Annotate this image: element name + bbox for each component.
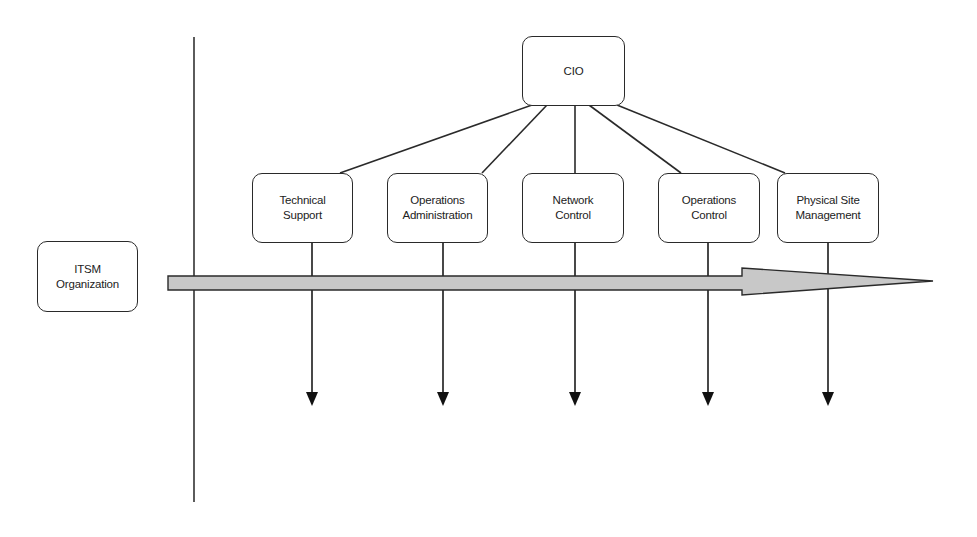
node-physical-site-management: Physical Site Management bbox=[777, 173, 879, 243]
flow-arrow-icon bbox=[168, 268, 933, 295]
diagram-canvas bbox=[0, 0, 977, 537]
node-operations-control-label: Operations Control bbox=[682, 193, 736, 223]
node-cio: CIO bbox=[522, 36, 625, 106]
arrowhead-icon bbox=[822, 392, 834, 406]
node-operations-control: Operations Control bbox=[658, 173, 760, 243]
node-operations-administration-label: Operations Administration bbox=[402, 193, 472, 223]
connector-technical-support bbox=[340, 105, 532, 173]
node-cio-label: CIO bbox=[564, 64, 584, 79]
connector-operations-control bbox=[589, 105, 681, 173]
arrowhead-icon bbox=[702, 392, 714, 406]
arrowhead-icon bbox=[306, 392, 318, 406]
arrowhead-icon bbox=[437, 392, 449, 406]
node-itsm-organization-label: ITSM Organization bbox=[56, 262, 119, 292]
node-technical-support-label: Technical Support bbox=[279, 193, 325, 223]
down-arrowheads bbox=[306, 392, 834, 406]
node-operations-administration: Operations Administration bbox=[387, 173, 488, 243]
connector-physical-site-management bbox=[617, 105, 785, 173]
node-physical-site-management-label: Physical Site Management bbox=[795, 193, 860, 223]
arrowhead-icon bbox=[569, 392, 581, 406]
node-network-control: Network Control bbox=[522, 173, 624, 243]
node-network-control-label: Network Control bbox=[553, 193, 594, 223]
cio-connectors bbox=[340, 105, 785, 173]
node-itsm-organization: ITSM Organization bbox=[37, 241, 138, 312]
node-technical-support: Technical Support bbox=[252, 173, 353, 243]
department-down-lines bbox=[312, 243, 828, 392]
connector-operations-administration bbox=[482, 105, 547, 173]
